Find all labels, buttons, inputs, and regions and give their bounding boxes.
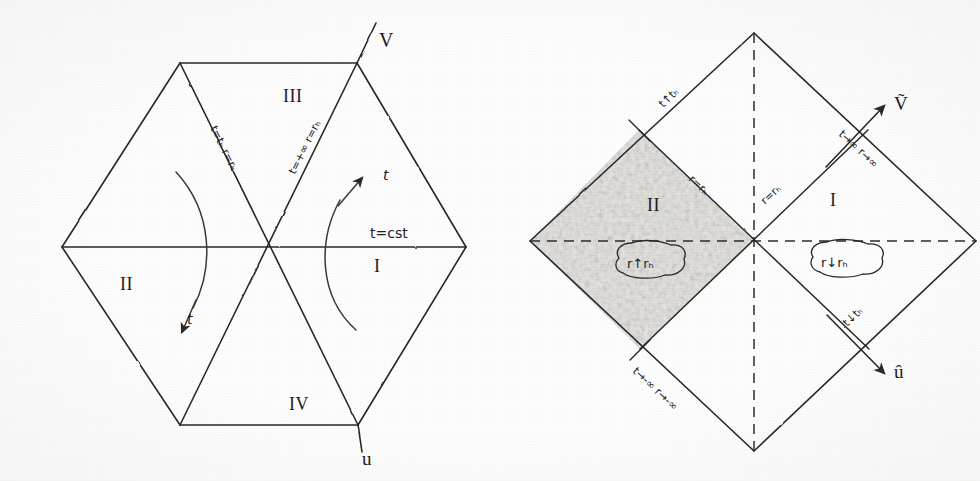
diamond-edge-upper-right [754,33,976,241]
region-label-I: I [374,256,381,276]
region-label-I: I [830,190,837,210]
left-horizon-label: t=tₕ r=rₕ [207,124,240,173]
region-II-radial-trend-label: r↑rₕ [627,256,654,271]
axis-label-V-tilde: Ṽ [894,93,908,114]
worldline-region-II [176,172,207,308]
v-axis-stub [357,23,376,63]
time-arrow-label-region-I: t [383,167,389,183]
lower-left-edge-label: t→-∞ r→-∞ [630,365,681,413]
axis-label-u: u [362,448,372,469]
region-label-III: III [283,86,302,106]
worldline-region-I [325,200,356,330]
u-hat-axis-arrow [827,315,884,373]
upper-left-edge-label: t↑tₕ [656,85,681,110]
constant-time-slice-label: t=cst [370,225,408,241]
figure-root: V u I II III IV t=tₕ r=rₕ t=+∞ r=rₕ t=cs… [0,0,980,481]
region-label-II: II [120,274,133,294]
right-diagram-panel: I II Ṽ û t↑tₕ t→∞ r→∞ t↓tₕ t→-∞ r→-∞ r=r… [490,0,980,481]
horizon-label-right: r=rₕ [758,182,783,207]
left-diagram-panel: V u I II III IV t=tₕ r=rₕ t=+∞ r=rₕ t=cs… [0,0,490,481]
time-arrow-label-region-II: t [187,311,193,327]
axis-label-u-hat: û [894,361,904,382]
axis-label-V: V [379,29,394,51]
region-I-radial-trend-label: r↓rₕ [821,255,848,270]
hexagon-edge-upper-left [62,63,180,247]
right-diagram-svg: I II Ṽ û t↑tₕ t→∞ r→∞ t↓tₕ t→-∞ r→-∞ r=r… [490,0,980,481]
left-diagram-svg: V u I II III IV t=tₕ r=rₕ t=+∞ r=rₕ t=cs… [0,0,490,481]
region-II-shading [530,130,754,349]
hexagon-edge-upper-right [357,63,466,247]
region-label-II: II [647,195,660,215]
region-label-IV: IV [289,394,309,414]
time-arrow-region-I [338,178,362,206]
right-horizon-label: t=+∞ r=rₕ [286,118,323,176]
